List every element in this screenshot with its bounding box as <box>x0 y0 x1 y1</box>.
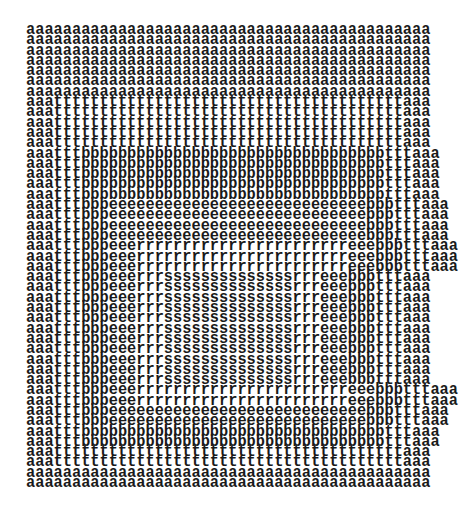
art-row: aaaaaaaaaaaaaaaaaaaaaaaaaaaaaaaaaaaaaaaa… <box>26 478 458 488</box>
typewriter-art: aaaaaaaaaaaaaaaaaaaaaaaaaaaaaaaaaaaaaaaa… <box>26 25 458 488</box>
